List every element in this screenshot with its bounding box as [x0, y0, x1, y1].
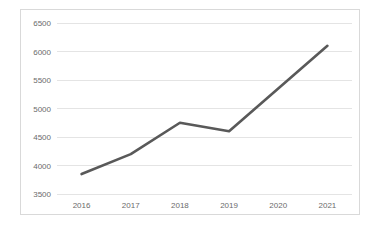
y-axis-tick-label: 5000 [33, 105, 51, 114]
y-axis-tick-label: 6500 [33, 19, 51, 28]
x-axis-tick-labels: 201620172018201920202021 [73, 201, 337, 210]
line-chart-figure: 3500400045005000550060006500 20162017201… [0, 0, 378, 230]
x-axis-tick-label: 2016 [73, 201, 91, 210]
y-axis-tick-label: 3500 [33, 190, 51, 199]
gridline-group [57, 23, 352, 194]
y-axis-tick-labels: 3500400045005000550060006500 [33, 19, 51, 199]
x-axis-tick-label: 2017 [122, 201, 140, 210]
y-axis-tick-label: 6000 [33, 48, 51, 57]
chart-canvas: 3500400045005000550060006500 20162017201… [0, 0, 378, 230]
y-axis-tick-label: 4000 [33, 162, 51, 171]
y-axis-tick-label: 4500 [33, 133, 51, 142]
x-axis-tick-label: 2020 [269, 201, 287, 210]
x-axis-tick-label: 2021 [319, 201, 337, 210]
y-axis-tick-label: 5500 [33, 76, 51, 85]
x-axis-tick-label: 2018 [171, 201, 189, 210]
data-series-line [82, 46, 328, 174]
x-axis-tick-label: 2019 [220, 201, 238, 210]
